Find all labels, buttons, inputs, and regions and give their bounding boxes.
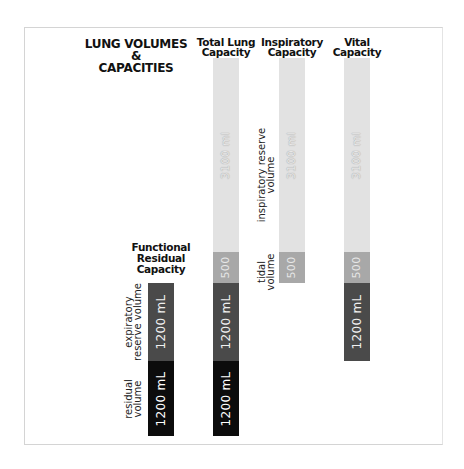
label-line: volume: [133, 379, 142, 419]
header-line: Capacity: [317, 47, 397, 57]
ic-tidal-segment: 500: [279, 252, 305, 283]
header-vital-capacity: Vital Capacity: [317, 37, 397, 57]
segment-value: 500: [220, 257, 233, 279]
segment-value: 3100 ml: [220, 131, 233, 178]
label-expiratory-reserve-volume: expiratoryreserve volume: [120, 283, 146, 361]
label-line: volume: [266, 253, 275, 290]
label-residual-volume: residualvolume: [120, 361, 146, 436]
segment-value: 500: [351, 257, 364, 279]
header-line: Capacity: [118, 264, 204, 275]
tlc-inspiratory-reserve-segment: 3100 ml: [213, 58, 239, 252]
label-inspiratory-reserve-volume: inspiratory reservevolume: [254, 120, 278, 230]
segment-value: 1200 mL: [219, 371, 233, 426]
segment-value: 1200 mL: [154, 295, 168, 350]
tlc-tidal-segment: 500: [213, 252, 239, 283]
segment-value: 500: [286, 257, 299, 279]
vc-expiratory-reserve-segment: 1200 mL: [344, 283, 370, 361]
frc-expiratory-reserve-segment: 1200 mL: [148, 283, 174, 361]
ic-inspiratory-reserve-segment: 3100 ml: [279, 58, 305, 252]
diagram-title: LUNG VOLUMES & CAPACITIES: [76, 38, 196, 74]
segment-value: 1200 mL: [154, 371, 168, 426]
vc-inspiratory-reserve-segment: 3100 ml: [344, 58, 370, 252]
segment-value: 3100 ml: [351, 131, 364, 178]
vc-tidal-segment: 500: [344, 252, 370, 283]
frc-residual-segment: 1200 mL: [148, 361, 174, 436]
header-functional-residual-capacity: Functional Residual Capacity: [118, 242, 204, 275]
segment-value: 3100 ml: [286, 131, 299, 178]
label-line: reserve volume: [133, 283, 142, 361]
segment-value: 1200 mL: [350, 295, 364, 350]
title-line-3: CAPACITIES: [76, 62, 196, 74]
label-tidal-volume: tidalvolume: [254, 252, 278, 292]
segment-value: 1200 mL: [219, 295, 233, 350]
tlc-residual-segment: 1200 mL: [213, 361, 239, 436]
label-line: volume: [266, 128, 275, 223]
tlc-expiratory-reserve-segment: 1200 mL: [213, 283, 239, 361]
